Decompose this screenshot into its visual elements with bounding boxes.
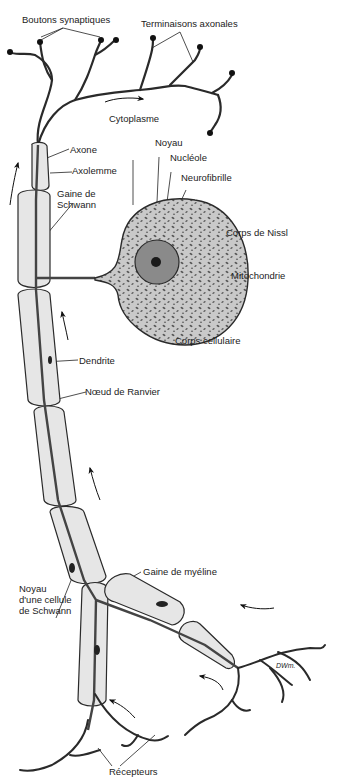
label-neurofibrille: Neurofibrille xyxy=(181,172,232,183)
cell-body xyxy=(95,199,248,345)
label-recepteurs: Récepteurs xyxy=(109,766,158,777)
label-gaine-de-schwann: Gaine de Schwann xyxy=(57,188,96,210)
label-nucleole: Nucléole xyxy=(170,152,207,163)
label-noyau: Noyau xyxy=(155,137,182,148)
label-terminaisons-axonales: Terminaisons axonales xyxy=(141,18,238,29)
leader-lines xyxy=(41,28,230,766)
label-axolemme: Axolemme xyxy=(72,165,117,176)
label-cytoplasme: Cytoplasme xyxy=(109,113,159,124)
label-dendrite: Dendrite xyxy=(79,355,115,366)
label-corps-de-nissl: Corps de Nissl xyxy=(226,227,288,238)
neuron-diagram: Boutons synaptiques Terminaisons axonale… xyxy=(0,0,338,780)
label-mitochondrie: Mitochondrie xyxy=(231,270,285,281)
label-gaine-de-myeline: Gaine de myéline xyxy=(143,566,217,577)
label-boutons-synaptiques: Boutons synaptiques xyxy=(22,14,110,25)
label-corps-cellulaire: Corps cellulaire xyxy=(175,335,240,346)
label-axone: Axone xyxy=(70,144,97,155)
artist-signature: DWm. xyxy=(276,660,295,671)
axon-terminals xyxy=(10,40,232,145)
label-noyau-cellule-schwann: Noyau d'une cellule de Schwann xyxy=(19,583,72,616)
label-noeud-de-ranvier: Nœud de Ranvier xyxy=(85,386,160,397)
